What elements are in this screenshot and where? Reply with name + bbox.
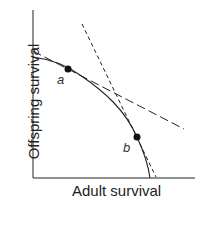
tradeoff-curve	[33, 57, 150, 178]
y-axis-label: Offspring survival	[25, 27, 42, 177]
point-a-label: a	[57, 72, 64, 87]
point-a-marker	[65, 66, 72, 73]
point-b-marker	[134, 134, 141, 141]
x-axis-label: Adult survival	[72, 182, 161, 199]
point-b-label: b	[123, 140, 130, 155]
tangent-line-b	[82, 24, 156, 177]
